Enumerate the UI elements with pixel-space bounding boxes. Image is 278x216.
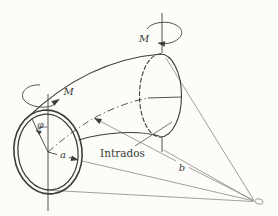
tube-upper-edge <box>26 54 161 119</box>
radius-a-dimension: a <box>48 149 79 163</box>
bend-axis-vertex-ellipse <box>254 198 263 205</box>
tangent-line-left-section <box>45 190 253 202</box>
b-dimension-arrowhead <box>93 116 102 124</box>
tube-lower-edge <box>79 133 159 140</box>
intrados-leader-line <box>135 122 172 146</box>
left-moment-label: M <box>63 86 75 97</box>
centerline-arc <box>48 98 148 152</box>
section-plane-line-right-top <box>166 58 254 201</box>
phi-label: φ <box>37 120 44 130</box>
left-moment: M <box>22 85 74 107</box>
right-moment-loop <box>147 22 182 43</box>
right-moment-arrowhead <box>157 40 165 47</box>
right-moment-label: M <box>138 33 150 44</box>
radius-a-extension-line <box>82 161 254 201</box>
right-endcap-back-edge <box>140 54 161 137</box>
a-label: a <box>60 149 66 160</box>
right-moment: M <box>138 22 182 47</box>
b-label: b <box>179 162 185 173</box>
curved-tube-figure: M M φ a Intrados b <box>0 0 278 216</box>
centerline-end-segment <box>148 97 181 98</box>
curved-tube-diagram: M M φ a Intrados b <box>0 0 278 216</box>
left-moment-arrowhead <box>51 97 60 106</box>
a-line-inner-segment <box>48 152 57 155</box>
left-cross-section <box>9 94 87 211</box>
intrados-label: Intrados <box>100 147 145 159</box>
phi-angle: φ <box>32 119 48 152</box>
